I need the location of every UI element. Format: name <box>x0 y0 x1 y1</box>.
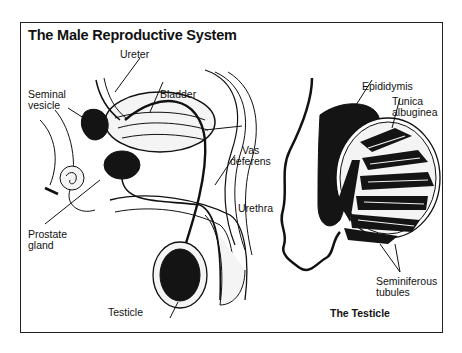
label-vas-deferens-line2: deferens <box>230 156 271 167</box>
label-tunica-albuginea-line2: albuginea <box>392 107 438 118</box>
label-seminal-vesicle-line2: vesicle <box>28 100 60 111</box>
label-prostate-line2: gland <box>28 240 54 251</box>
label-urethra: Urethra <box>238 203 273 214</box>
inset-caption: The Testicle <box>330 307 390 319</box>
label-epididymis: Epididymis <box>362 81 413 92</box>
diagram-title: The Male Reproductive System <box>28 27 237 43</box>
anatomy-illustration <box>0 0 462 353</box>
label-ureter: Ureter <box>120 49 149 60</box>
label-testicle: Testicle <box>108 307 143 318</box>
label-bladder: Bladder <box>160 89 196 100</box>
label-seminiferous-tubules-line2: tubules <box>376 287 410 298</box>
